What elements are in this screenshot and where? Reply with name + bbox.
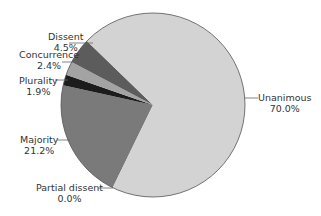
label-unanimous: Unanimous 70.0% [258, 92, 312, 114]
pie-slices [61, 13, 245, 197]
label-partial-dissent: Partial dissent 0.0% [36, 182, 103, 204]
label-partial-dissent-name: Partial dissent [36, 182, 103, 193]
label-concurrence-name: Concurrence [19, 49, 79, 60]
label-majority-name: Majority [20, 134, 58, 145]
label-majority: Majority 21.2% [20, 134, 58, 156]
label-concurrence-pct: 2.4% [19, 60, 79, 71]
label-majority-pct: 21.2% [20, 145, 58, 156]
label-unanimous-name: Unanimous [258, 92, 312, 103]
label-dissent-name: Dissent [48, 31, 83, 42]
label-unanimous-pct: 70.0% [258, 103, 312, 114]
label-plurality-pct: 1.9% [19, 86, 58, 97]
label-plurality-name: Plurality [19, 75, 58, 86]
label-partial-dissent-pct: 0.0% [36, 193, 103, 204]
label-concurrence: Concurrence 2.4% [19, 49, 79, 71]
label-plurality: Plurality 1.9% [19, 75, 58, 97]
